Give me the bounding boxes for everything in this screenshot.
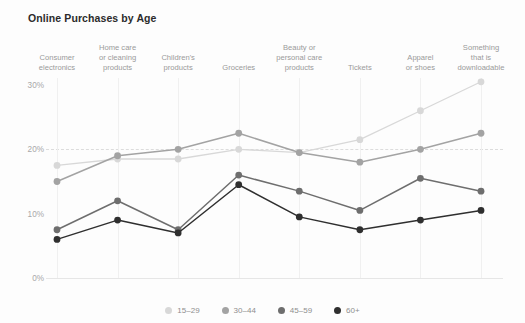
data-point[interactable] bbox=[296, 213, 303, 220]
data-point[interactable] bbox=[478, 130, 485, 137]
data-point[interactable] bbox=[114, 197, 121, 204]
series-60+ bbox=[54, 181, 485, 242]
series-45-59 bbox=[54, 172, 485, 233]
data-point[interactable] bbox=[417, 217, 424, 224]
data-point[interactable] bbox=[417, 146, 424, 153]
legend-label: 60+ bbox=[346, 306, 360, 315]
legend-item[interactable]: 45–59 bbox=[278, 306, 312, 315]
legend-color-dot-icon bbox=[222, 307, 229, 314]
data-point[interactable] bbox=[175, 146, 182, 153]
data-point[interactable] bbox=[356, 159, 363, 166]
legend-color-dot-icon bbox=[334, 307, 341, 314]
data-point[interactable] bbox=[54, 236, 61, 243]
data-point[interactable] bbox=[114, 217, 121, 224]
data-point[interactable] bbox=[235, 130, 242, 137]
legend-label: 15–29 bbox=[177, 306, 199, 315]
legend-item[interactable]: 15–29 bbox=[165, 306, 199, 315]
data-point[interactable] bbox=[54, 178, 61, 185]
data-point[interactable] bbox=[54, 162, 61, 169]
data-point[interactable] bbox=[296, 149, 303, 156]
series-line bbox=[57, 133, 481, 181]
data-point[interactable] bbox=[114, 152, 121, 159]
data-point[interactable] bbox=[235, 181, 242, 188]
data-point[interactable] bbox=[356, 136, 363, 143]
data-point[interactable] bbox=[175, 230, 182, 237]
data-point[interactable] bbox=[54, 226, 61, 233]
data-point[interactable] bbox=[417, 175, 424, 182]
legend-item[interactable]: 60+ bbox=[334, 306, 360, 315]
data-point[interactable] bbox=[175, 156, 182, 163]
data-point[interactable] bbox=[296, 188, 303, 195]
legend-item[interactable]: 30–44 bbox=[222, 306, 256, 315]
legend-color-dot-icon bbox=[278, 307, 285, 314]
legend-label: 45–59 bbox=[290, 306, 312, 315]
data-point[interactable] bbox=[478, 207, 485, 214]
data-point[interactable] bbox=[356, 207, 363, 214]
legend-color-dot-icon bbox=[165, 307, 172, 314]
legend-label: 30–44 bbox=[234, 306, 256, 315]
data-point[interactable] bbox=[356, 226, 363, 233]
data-point[interactable] bbox=[235, 146, 242, 153]
data-point[interactable] bbox=[417, 107, 424, 114]
series-layer bbox=[0, 0, 525, 323]
series-line bbox=[57, 82, 481, 166]
data-point[interactable] bbox=[235, 172, 242, 179]
series-line bbox=[57, 185, 481, 240]
chart-card: Online Purchases by Age 0%10%20%30%Consu… bbox=[0, 0, 525, 323]
chart-plot-area: 0%10%20%30%Consumer electronicsHome care… bbox=[0, 0, 525, 323]
chart-legend: 15–2930–4445–5960+ bbox=[0, 306, 525, 315]
data-point[interactable] bbox=[478, 188, 485, 195]
data-point[interactable] bbox=[478, 78, 485, 85]
